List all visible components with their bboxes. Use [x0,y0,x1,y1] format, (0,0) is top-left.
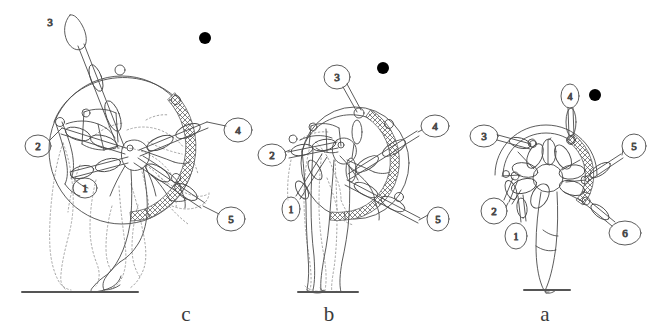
segment-label-3-c: 3 [47,16,53,28]
segment-label-2-c: 2 [35,140,41,152]
panel-caption-a: a [540,302,550,326]
segment-label-5-c: 5 [228,213,234,225]
segment-label-5-a: 5 [631,140,637,152]
segment-label-1-c: 1 [82,182,88,194]
segment-label-2-b: 2 [269,149,275,161]
panel-caption-c: c [181,302,190,326]
segment-label-2-a: 2 [491,205,497,217]
segment-label-4-a: 4 [568,91,573,102]
ball-marker-a [589,89,601,101]
segment-label-4-c: 4 [235,124,241,136]
segment-label-6-a: 6 [622,227,628,239]
hatched-arc-b-tail [330,212,345,221]
panel-caption-b: b [324,302,335,326]
segment-label-3-b: 3 [334,71,340,83]
segment-label-5-b: 5 [435,213,441,225]
ball-marker-c [199,32,211,44]
ball-marker-b [377,62,389,74]
segment-label-1-b: 1 [289,204,294,215]
segment-label-1-a: 1 [514,231,519,242]
segment-label-4-b: 4 [432,120,438,132]
kinematic-figure-svg: 3 2 1 4 5 c [0,0,658,331]
figure-container: 3 2 1 4 5 c [0,0,658,331]
segment-label-3-a: 3 [481,130,487,142]
